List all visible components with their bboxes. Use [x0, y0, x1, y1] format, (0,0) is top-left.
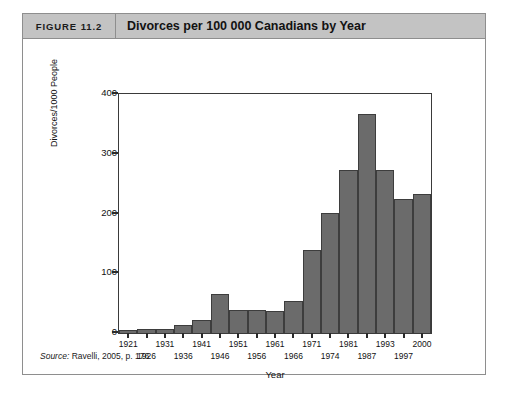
x-axis-tick-mark: [156, 333, 174, 338]
x-axis-tick-mark: [303, 333, 321, 338]
x-axis-tick-mark: [358, 333, 376, 338]
x-axis-tick-mark: [211, 333, 229, 338]
y-axis-tick-mark: [112, 331, 118, 333]
x-axis-tick-label: 1936: [174, 339, 192, 365]
plot-area: [118, 93, 432, 334]
bar: [174, 325, 192, 333]
x-axis-tick-label: 1951: [229, 339, 247, 365]
y-axis-tick-mark: [112, 92, 118, 94]
bar: [376, 170, 394, 333]
x-axis-label: Year: [119, 369, 431, 380]
bar: [211, 294, 229, 333]
x-axis-tick-mark: [413, 333, 431, 338]
x-axis-tick-mark: [229, 333, 247, 338]
x-axis-tick-mark: [119, 333, 137, 338]
x-axis-tick-mark: [248, 333, 266, 338]
bar: [303, 250, 321, 333]
x-axis-tick-mark: [284, 333, 302, 338]
bar-series: [119, 94, 431, 333]
source-note: Source: Ravelli, 2005, p. 176: [40, 351, 149, 361]
source-prefix: Source:: [40, 351, 69, 361]
x-axis-tick-label: 1931: [156, 339, 174, 365]
x-axis-tick-mark: [394, 333, 412, 338]
x-axis-tick-mark: [376, 333, 394, 338]
figure-title: Divorces per 100 000 Canadians by Year: [116, 19, 366, 33]
source-text: Ravelli, 2005, p. 176: [72, 351, 150, 361]
bar: [321, 213, 339, 333]
x-axis-tick-label: 1956: [248, 339, 266, 365]
bar: [266, 311, 284, 333]
x-axis-tick-mark: [321, 333, 339, 338]
x-axis-tick-label: 1993: [376, 339, 394, 365]
y-axis-tick-mark: [112, 152, 118, 154]
x-axis-tick-label: 1974: [321, 339, 339, 365]
x-axis-tick-label: 1961: [266, 339, 284, 365]
x-axis-tick-label: 1981: [339, 339, 357, 365]
y-axis-tick-mark: [112, 271, 118, 273]
bar: [339, 170, 357, 333]
figure-number-label: FIGURE 11.2: [23, 21, 115, 32]
x-axis-tick-label: 1971: [303, 339, 321, 365]
bar: [192, 320, 210, 333]
bar: [358, 114, 376, 333]
bar: [284, 301, 302, 333]
bar: [394, 199, 412, 333]
x-axis-tick-label: 1941: [192, 339, 210, 365]
x-axis-tick-label: 1997: [394, 339, 412, 365]
x-axis-tick-mark: [174, 333, 192, 338]
x-axis-tick-label: 1946: [211, 339, 229, 365]
figure-header: FIGURE 11.2 Divorces per 100 000 Canadia…: [22, 13, 486, 39]
x-axis-tick-mark: [137, 333, 155, 338]
bar: [229, 310, 247, 333]
y-axis-label: Divorces/1000 People: [49, 59, 59, 147]
x-axis-tick-mark: [192, 333, 210, 338]
x-axis-tick-label: 1987: [358, 339, 376, 365]
figure-container: FIGURE 11.2 Divorces per 100 000 Canadia…: [22, 13, 486, 375]
x-axis-tick-label: 2000: [413, 339, 431, 365]
x-axis-tick-marks: [119, 333, 431, 338]
x-axis-tick-mark: [266, 333, 284, 338]
x-axis-tick-label: 1966: [284, 339, 302, 365]
x-axis-tick-mark: [339, 333, 357, 338]
bar: [248, 310, 266, 333]
bar: [413, 194, 431, 333]
y-axis-tick-mark: [112, 212, 118, 214]
x-axis-tick-labels: 1921192619311936194119461951195619611966…: [119, 339, 431, 365]
figure-body: Divorces/1000 People 1921192619311936194…: [22, 39, 486, 375]
